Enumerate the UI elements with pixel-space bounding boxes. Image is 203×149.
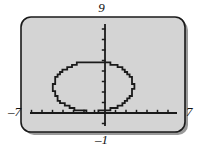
- y-max-label: 9: [0, 1, 203, 14]
- y-min-label: –1: [0, 133, 203, 146]
- x-min-label: –7: [1, 105, 21, 118]
- calculator-screenshot: 9 –1 –7 7: [0, 0, 203, 149]
- x-max-label: 7: [186, 105, 203, 118]
- screen-bezel: [21, 17, 185, 132]
- plot-area: [0, 0, 203, 149]
